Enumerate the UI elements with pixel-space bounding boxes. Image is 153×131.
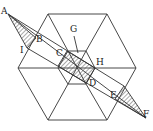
- label-d: D: [89, 78, 96, 88]
- label-e: E: [110, 90, 117, 100]
- label-a: A: [0, 6, 8, 16]
- shaded-triangle-a: [8, 14, 36, 48]
- label-c: C: [56, 48, 63, 58]
- label-b: B: [36, 34, 43, 44]
- label-h: H: [96, 57, 104, 67]
- geometry-diagram: A B I G C H D E F: [0, 0, 153, 131]
- label-g: G: [70, 24, 77, 34]
- label-f: F: [143, 109, 149, 119]
- label-i: I: [20, 45, 24, 55]
